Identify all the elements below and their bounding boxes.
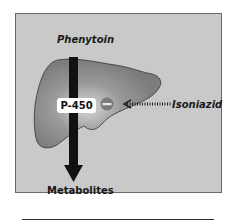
phenytoin-label: Phenytoin: [57, 34, 114, 45]
p450-enzyme-label: P-450: [57, 98, 96, 113]
metabolic-pathway-arrow-head: [64, 165, 83, 182]
isoniazid-label: Isoniazid: [172, 99, 222, 110]
metabolites-label: Metabolites: [47, 185, 114, 196]
divider-line: [22, 219, 214, 220]
liver-shape: [34, 59, 161, 148]
diagram-graphics: [0, 0, 234, 224]
minus-icon: [103, 103, 112, 105]
metabolic-pathway-arrow-shaft: [69, 57, 78, 172]
